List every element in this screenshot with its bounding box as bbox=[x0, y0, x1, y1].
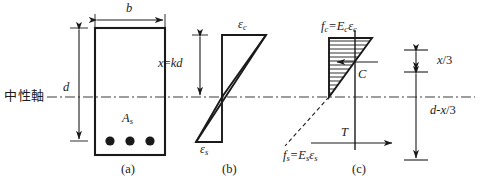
steel-stress-equals: =E bbox=[290, 148, 306, 162]
panel-c-caption: (c) bbox=[352, 163, 366, 176]
steel-area-symbol: A bbox=[122, 111, 130, 125]
steel-area-label: As bbox=[122, 112, 133, 126]
compression-force-label: C bbox=[358, 68, 366, 81]
panel-a-caption: (a) bbox=[121, 163, 135, 176]
neutral-depth-equals: = bbox=[164, 56, 171, 70]
lever-arm-top-label: x/3 bbox=[437, 54, 452, 67]
steel-strain-label: εs bbox=[200, 143, 208, 157]
steel-strain-subscript: s bbox=[205, 147, 208, 157]
steel-area-subscript: s bbox=[130, 116, 133, 126]
panel-b-strain-diagram bbox=[192, 35, 266, 142]
depth-label-d: d bbox=[63, 81, 69, 94]
concrete-strain-label: εc bbox=[238, 18, 247, 32]
beam-strain-stress-figure: 中性軸 b d As (a) x=kd εc εs (b) fc=Ecεc C … bbox=[0, 0, 481, 186]
lever-arm-top-fraction: /3 bbox=[443, 53, 453, 67]
lever-arm-bottom-minus: -x bbox=[436, 103, 446, 117]
lever-arm-dimensions bbox=[404, 50, 428, 160]
strain-profile-line bbox=[196, 35, 266, 142]
concrete-stress-label: fc=Ecεc bbox=[321, 20, 357, 34]
steel-stress-strain-subscript: s bbox=[314, 153, 317, 163]
panel-a-cross-section bbox=[70, 14, 165, 155]
neutral-depth-label: x=kd bbox=[158, 57, 182, 70]
concrete-stress-strain-subscript: c bbox=[353, 24, 357, 34]
width-label-b: b bbox=[126, 2, 132, 15]
steel-stress-label: fs=Esεs bbox=[283, 149, 317, 163]
lever-arm-bottom-label: d-x/3 bbox=[430, 104, 456, 117]
lever-arm-bottom-fraction: /3 bbox=[446, 103, 456, 117]
rebar-dot bbox=[105, 136, 114, 145]
concrete-strain-subscript: c bbox=[243, 22, 247, 32]
rebar-dot bbox=[125, 136, 134, 145]
neutral-axis-label: 中性軸 bbox=[4, 89, 45, 102]
rebar-dot bbox=[145, 136, 154, 145]
panel-c-stress-diagram bbox=[285, 30, 392, 150]
concrete-stress-equals: =E bbox=[328, 19, 344, 33]
steel-stress-line bbox=[285, 97, 329, 146]
neutral-depth-value: kd bbox=[171, 56, 183, 70]
beam-section-rectangle bbox=[95, 28, 165, 155]
tension-force-label: T bbox=[341, 126, 348, 139]
panel-b-caption: (b) bbox=[222, 163, 237, 176]
